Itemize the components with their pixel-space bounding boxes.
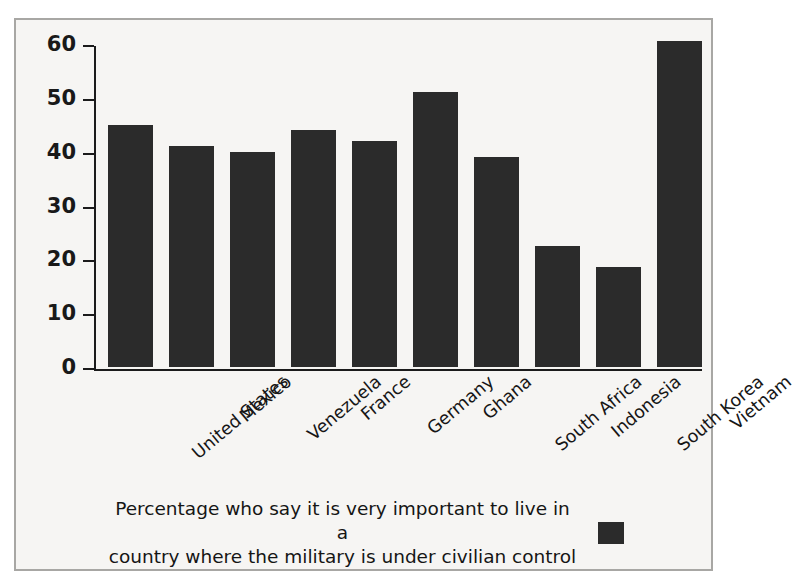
- y-axis-tick: 0: [83, 368, 94, 370]
- y-axis-tick: 30: [83, 207, 94, 209]
- legend-label-line-2: country where the military is under civi…: [108, 545, 578, 569]
- chart-legend: Percentage who say it is very important …: [16, 498, 715, 568]
- x-axis-line: [94, 369, 702, 371]
- y-axis-tick: 40: [83, 153, 94, 155]
- legend-color-swatch: [598, 522, 624, 544]
- y-axis-tick-label: 40: [47, 142, 76, 163]
- legend-label: Percentage who say it is very important …: [108, 497, 578, 569]
- y-axis-tick-label: 50: [47, 88, 76, 109]
- bar-germany: [352, 141, 397, 367]
- plot-area: 0102030405060: [94, 46, 702, 369]
- bar-ghana: [413, 92, 458, 367]
- y-axis-tick-label: 0: [61, 357, 76, 378]
- chart-figure: 0102030405060 United StatesMexicoVenezue…: [14, 18, 713, 571]
- bar-south-africa: [474, 157, 519, 367]
- y-axis-tick: 10: [83, 314, 94, 316]
- y-axis-line: [94, 46, 96, 371]
- bar-south-korea: [596, 267, 641, 367]
- y-axis-tick-label: 60: [47, 34, 76, 55]
- y-axis-tick-label: 10: [47, 303, 76, 324]
- bar-united-states: [108, 125, 153, 367]
- x-axis-labels: United StatesMexicoVenezuelaFranceGerman…: [94, 372, 714, 502]
- bar-france: [291, 130, 336, 367]
- y-axis-tick: 20: [83, 260, 94, 262]
- bar-indonesia: [535, 246, 580, 367]
- y-axis-tick-label: 20: [47, 249, 76, 270]
- bar-mexico: [169, 146, 214, 367]
- y-axis-tick: 50: [83, 99, 94, 101]
- y-axis-tick-label: 30: [47, 196, 76, 217]
- y-axis-tick: 60: [83, 45, 94, 47]
- legend-label-line-1: Percentage who say it is very important …: [108, 497, 578, 545]
- bar-venezuela: [230, 152, 275, 367]
- bar-vietnam: [657, 41, 702, 367]
